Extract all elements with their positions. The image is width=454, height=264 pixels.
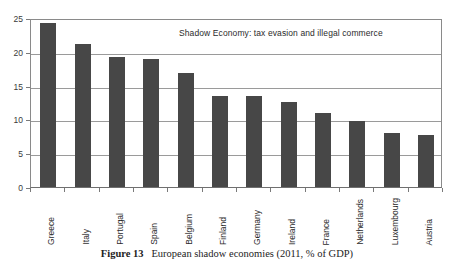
x-tick-label-text: Belgium	[185, 214, 194, 245]
x-tick-mark	[167, 188, 168, 192]
x-tick-mark	[270, 188, 271, 192]
y-axis: 0510152025	[0, 0, 30, 244]
bar-finland	[212, 96, 228, 187]
bar-netherlands	[349, 121, 365, 187]
bar-germany	[246, 96, 262, 187]
bar-italy	[75, 44, 91, 187]
x-tick-label-text: Greece	[47, 217, 56, 245]
x-tick-mark	[99, 188, 100, 192]
x-tick-mark	[64, 188, 65, 192]
x-tick-mark	[305, 188, 306, 192]
x-tick-mark	[202, 188, 203, 192]
caption-text: European shadow economies (2011, % of GD…	[151, 248, 353, 259]
x-tick-label-text: Luxembourg	[391, 198, 400, 245]
x-tick-mark	[339, 188, 340, 192]
x-tick-label-text: Germany	[253, 210, 262, 245]
bars-layer	[31, 20, 441, 187]
bar-france	[315, 113, 331, 187]
figure-container: 0510152025 Shadow Economy: tax evasion a…	[0, 0, 454, 264]
y-tick-label: 15	[14, 82, 23, 92]
y-tick-label: 25	[14, 14, 23, 24]
x-tick-mark	[442, 188, 443, 192]
bar-portugal	[109, 57, 125, 187]
x-tick-mark	[133, 188, 134, 192]
y-tick-label: 20	[14, 48, 23, 58]
bar-luxembourg	[384, 133, 400, 187]
caption-label: Figure 13	[101, 248, 144, 259]
y-tick-label: 0	[18, 183, 23, 193]
x-tick-mark	[408, 188, 409, 192]
plot-area: Shadow Economy: tax evasion and illegal …	[30, 19, 442, 188]
x-tick-label-text: Italy	[82, 229, 91, 245]
x-tick-label-text: Netherlands	[356, 199, 365, 245]
x-tick-label-text: Austria	[425, 219, 434, 245]
y-tick-label: 5	[18, 149, 23, 159]
x-tick-mark	[373, 188, 374, 192]
bar-greece	[40, 23, 56, 187]
x-tick-label-text: France	[322, 219, 331, 245]
x-tick-mark	[30, 188, 31, 192]
bar-belgium	[178, 73, 194, 187]
x-tick-label-text: Ireland	[288, 219, 297, 245]
x-tick-mark	[236, 188, 237, 192]
bar-spain	[143, 59, 159, 187]
bar-chart: 0510152025 Shadow Economy: tax evasion a…	[0, 0, 454, 244]
x-tick-label-text: Portugal	[116, 213, 125, 245]
x-axis: GreeceItalyPortugalSpainBelgiumFinlandGe…	[30, 188, 442, 244]
y-tick-label: 10	[14, 115, 23, 125]
bar-ireland	[281, 102, 297, 187]
bar-austria	[418, 135, 434, 187]
x-tick-label-text: Finland	[219, 217, 228, 245]
x-tick-label-text: Spain	[150, 223, 159, 245]
figure-caption: Figure 13 European shadow economies (201…	[0, 248, 454, 259]
